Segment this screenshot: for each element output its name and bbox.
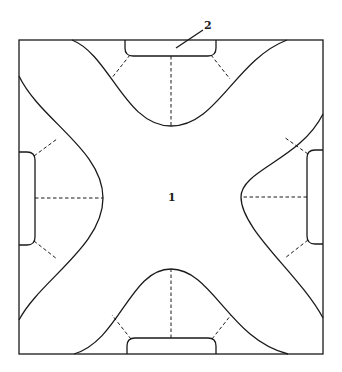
pad-label: 2 [204,19,212,32]
bottom-pad [127,338,216,354]
diagram-canvas: 2 1 [0,0,342,372]
left-pad [19,152,35,245]
right-boundary-curve [241,114,323,318]
right-pad [307,150,323,244]
center-label: 1 [168,191,176,204]
pad-label-leader [176,30,203,48]
top-pad [125,40,216,56]
bottom-boundary-curve [74,269,288,354]
top-pad-connectors [111,55,230,126]
bottom-pad-connectors [112,269,231,339]
top-boundary-curve [72,40,287,126]
right-pad-connectors [241,137,308,258]
left-pad-connectors [34,139,103,259]
